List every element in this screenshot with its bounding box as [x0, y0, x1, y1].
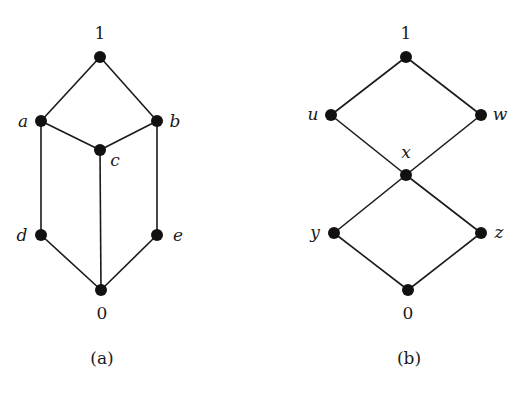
diagram-a: 1 a b c d e 0 (a) — [17, 23, 183, 368]
node-w — [475, 109, 487, 121]
node-d — [35, 229, 47, 241]
node-1 — [94, 51, 106, 63]
label-b: b — [170, 111, 181, 131]
edge-1-b — [100, 57, 157, 121]
node-b — [151, 115, 163, 127]
label-y: y — [309, 222, 320, 242]
label-0: 0 — [97, 303, 108, 323]
node-x — [400, 169, 412, 181]
edge-c-0 — [100, 150, 101, 290]
label-x: x — [401, 142, 411, 162]
edge-x-y — [334, 175, 406, 233]
node-c — [94, 144, 106, 156]
lattice-diagrams: 1 a b c d e 0 (a) 1 u w x y z 0 (b) — [0, 0, 522, 393]
label-z: z — [494, 222, 505, 242]
edge-y-0 — [334, 233, 408, 290]
edge-b-c — [100, 121, 157, 150]
caption-a: (a) — [90, 348, 113, 368]
edge-w-x — [406, 115, 481, 175]
node-u — [325, 109, 337, 121]
edge-d-0 — [41, 235, 101, 290]
edge-x-z — [406, 175, 481, 233]
label-u: u — [308, 104, 319, 124]
edge-1-w — [406, 57, 481, 115]
edge-1-u — [331, 57, 406, 115]
node-e — [151, 229, 163, 241]
node-y — [328, 227, 340, 239]
node-0 — [95, 284, 107, 296]
diagram-b: 1 u w x y z 0 (b) — [308, 23, 508, 368]
label-d: d — [17, 225, 28, 245]
label-e: e — [173, 225, 183, 245]
edge-1-a — [41, 57, 100, 121]
label-w: w — [493, 104, 508, 124]
label-0: 0 — [403, 303, 414, 323]
edge-z-0 — [408, 233, 481, 290]
node-a — [35, 115, 47, 127]
node-z — [475, 227, 487, 239]
label-1: 1 — [95, 23, 106, 43]
label-1: 1 — [401, 23, 412, 43]
caption-b: (b) — [397, 348, 421, 368]
node-1 — [400, 51, 412, 63]
edge-a-c — [41, 121, 100, 150]
label-a: a — [18, 111, 28, 131]
node-0 — [402, 284, 414, 296]
label-c: c — [110, 150, 120, 170]
edge-u-x — [331, 115, 406, 175]
edge-e-0 — [101, 235, 157, 290]
